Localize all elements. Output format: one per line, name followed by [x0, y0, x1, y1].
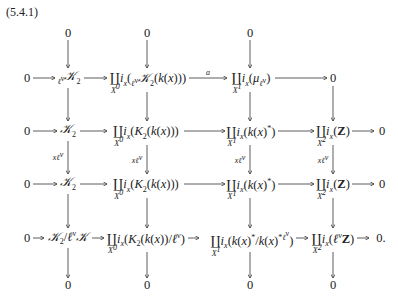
K-symbol: 𝒦: [64, 68, 76, 83]
top-zero-col3: 0: [247, 27, 253, 40]
row4-coprod-X0-K2-mod: ∐X0ix(K2(k(x))/ℓν): [107, 232, 185, 249]
sup-0: 0: [113, 243, 117, 252]
sup-2: 2: [322, 135, 326, 144]
nu-symbol: ν: [263, 75, 267, 84]
row3-coprod-X2-Z: ∐X2ix(Z): [316, 178, 350, 194]
sub-2: 2: [60, 237, 64, 246]
row1-left-zero: 0: [24, 72, 30, 85]
sub-2: 2: [137, 239, 141, 248]
Z-symbol: Z: [337, 177, 345, 191]
x-sub: x: [245, 79, 249, 88]
row4-K2-mod-lnu: 𝒦2/ℓν𝒦: [48, 230, 88, 247]
x-sub: x: [240, 185, 244, 194]
x-sub: x: [127, 132, 131, 141]
star-sup: *: [267, 177, 271, 186]
row1-right-zero: 0: [330, 72, 336, 85]
K-symbol: 𝒦: [138, 70, 150, 85]
sub-2: 2: [72, 183, 76, 192]
row3-coprod-X0-K2: ∐X0ix(K2(k(x))): [113, 178, 178, 194]
x-sub: x: [121, 239, 125, 248]
sup-1: 1: [232, 189, 236, 198]
sup-0: 0: [119, 135, 123, 144]
Z-symbol: Z: [342, 232, 350, 246]
star-sup: *: [251, 233, 255, 242]
sub-2: 2: [143, 132, 147, 141]
top-zero-col1: 0: [65, 27, 71, 40]
row3-left-zero: 0: [24, 178, 30, 191]
x-sub: x: [127, 185, 131, 194]
x-sub: x: [240, 132, 244, 141]
row2-coprod-X0-K2: ∐X0ix(K2(k(x))): [113, 125, 178, 141]
arrow-label-a: a: [206, 68, 210, 77]
row3-right-zero: 0: [379, 178, 385, 191]
bottom-zero-col1: 0: [65, 279, 71, 292]
row2-K2: 𝒦2: [60, 123, 76, 139]
row2-left-zero: 0: [24, 125, 30, 138]
row4-coprod-X1-units-mod: ∐X1ix(k(x)*/k(x)*ℓν): [211, 230, 294, 250]
top-zero-col2: 0: [144, 27, 150, 40]
vlabel-col1: xℓν: [53, 150, 63, 163]
x-sub: x: [325, 239, 329, 248]
row2-right-zero: 0: [379, 125, 385, 138]
row3-coprod-X1-units: ∐X1ix(k(x)*): [227, 178, 276, 195]
nu-symbol: ν: [177, 231, 181, 240]
row1-torsion-K2: ℓν𝒦2: [58, 70, 81, 86]
row1-coprod-X0: ∐X0ix(ℓν𝒦2(k(x))): [110, 72, 186, 88]
Z-symbol: Z: [337, 124, 345, 138]
sup-2: 2: [322, 188, 326, 197]
K-symbol: 𝒦: [60, 121, 72, 136]
x-sub: x: [330, 132, 334, 141]
row1-coprod-X1-mu: ∐X1ix(μℓν): [232, 72, 271, 88]
row4-coprod-X2-lZ: ∐X2ix(ℓνZ): [312, 232, 355, 249]
row4-right-zero: 0.: [376, 232, 385, 245]
vlabel-col2: xℓν: [132, 153, 142, 166]
x-sub: x: [330, 185, 334, 194]
bottom-zero-col3: 0: [247, 279, 253, 292]
sup-0: 0: [119, 188, 123, 197]
row4-left-zero: 0: [24, 232, 30, 245]
row3-K2: 𝒦2: [60, 176, 76, 192]
sup-1: 1: [238, 82, 242, 91]
K-symbol: 𝒦: [48, 229, 60, 244]
bottom-zero-col4: 0: [330, 279, 336, 292]
sub-2: 2: [150, 79, 154, 88]
x-sub: x: [224, 241, 228, 250]
row2-coprod-X2-Z: ∐X2ix(Z): [316, 125, 350, 141]
sub-2: 2: [76, 77, 80, 86]
vlabel-col3: xℓν: [235, 153, 245, 166]
K-symbol: 𝒦: [60, 174, 72, 189]
x-sub: x: [123, 79, 127, 88]
sup-2: 2: [318, 243, 322, 252]
sup-1: 1: [217, 245, 221, 254]
bottom-zero-col2: 0: [144, 279, 150, 292]
sup-0: 0: [116, 82, 120, 91]
row2-coprod-X1-units: ∐X1ix(k(x)*): [227, 125, 276, 142]
K-symbol: 𝒦: [76, 229, 88, 244]
vlabel-col4: xℓν: [318, 153, 328, 166]
star-sup: *: [267, 124, 271, 133]
sub-2: 2: [72, 130, 76, 139]
sub-2: 2: [143, 185, 147, 194]
sup-1: 1: [232, 136, 236, 145]
